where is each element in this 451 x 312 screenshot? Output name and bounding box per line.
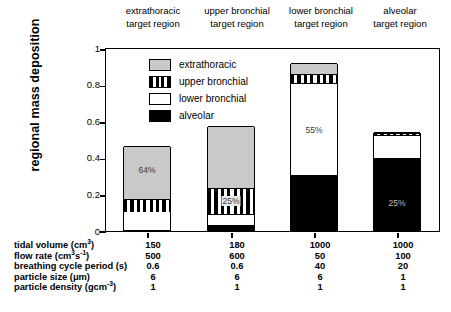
bar-segment-extrathoracic xyxy=(291,63,337,74)
bar-lower-bronchial-target[interactable]: 55% xyxy=(290,64,338,231)
legend-label-alveolar: alveolar xyxy=(179,110,214,121)
bar-segment-upper-bronchial xyxy=(374,133,420,135)
table-row-tidal-volume: tidal volume (cm3) 150 180 1000 1000 xyxy=(14,240,444,251)
bar-segment-alveolar xyxy=(208,225,254,231)
header-line1: alveolar xyxy=(352,4,448,17)
header-line2: target region xyxy=(352,17,448,30)
row-value-3: 1 xyxy=(272,282,368,292)
row-label: flow rate (cm3s-1) xyxy=(14,251,89,261)
row-value-3: 50 xyxy=(272,251,368,261)
legend-swatch-extrathoracic xyxy=(149,59,171,71)
legend-item-upper-bronchial: upper bronchial xyxy=(149,73,248,90)
column-header-upper-bronchial: upper bronchial target region xyxy=(189,4,285,30)
x-tick-2 xyxy=(231,233,233,238)
bar-segment-lower-bronchial xyxy=(124,212,170,230)
legend-item-extrathoracic: extrathoracic xyxy=(149,56,248,73)
row-value-3: 6 xyxy=(272,272,368,282)
y-tick-0.6 xyxy=(100,122,106,124)
row-value-3: 40 xyxy=(272,261,368,271)
y-tick-0.2 xyxy=(100,195,106,197)
row-value-1: 500 xyxy=(105,251,201,261)
row-value-4: 100 xyxy=(355,251,451,261)
header-line1: upper bronchial xyxy=(189,4,285,17)
bar-segment-upper-bronchial: 25% xyxy=(208,188,254,214)
legend-label-upper-bronchial: upper bronchial xyxy=(179,76,248,87)
legend-swatch-alveolar xyxy=(149,110,171,122)
legend-label-extrathoracic: extrathoracic xyxy=(179,59,236,70)
y-tick-0.4 xyxy=(100,159,106,161)
bar-alveolar-target[interactable]: 25% xyxy=(373,133,421,231)
legend-item-alveolar: alveolar xyxy=(149,107,248,124)
row-value-2: 180 xyxy=(189,240,285,250)
legend-label-lower-bronchial: lower bronchial xyxy=(179,93,246,104)
row-value-2: 1 xyxy=(189,282,285,292)
x-tick-4 xyxy=(397,233,399,238)
table-row-particle-density: particle density (gcm-3) 1 1 1 1 xyxy=(14,282,444,293)
y-tick-label-0.8: 0.8 xyxy=(74,79,100,90)
legend-item-lower-bronchial: lower bronchial xyxy=(149,90,248,107)
column-headers: extrathoracic target region upper bronch… xyxy=(105,4,440,42)
bar-value-label: 25% xyxy=(221,196,240,206)
header-line2: target region xyxy=(105,17,201,30)
y-tick-0 xyxy=(100,231,106,233)
row-value-1: 6 xyxy=(105,272,201,282)
column-header-alveolar: alveolar target region xyxy=(352,4,448,30)
y-tick-0.8 xyxy=(100,86,106,88)
y-tick-label-0.6: 0.6 xyxy=(74,116,100,127)
bar-segment-alveolar xyxy=(291,175,337,231)
y-tick-label-0.4: 0.4 xyxy=(74,152,100,163)
y-tick-1 xyxy=(100,49,106,51)
row-value-3: 1000 xyxy=(272,240,368,250)
bar-segment-lower-bronchial xyxy=(208,214,254,225)
table-row-breathing-cycle-period: breathing cycle period (s) 0.6 0.6 40 20 xyxy=(14,261,444,272)
plot-area: extrathoracic upper bronchial lower bron… xyxy=(105,48,440,232)
bar-segment-lower-bronchial: 55% xyxy=(291,83,337,175)
x-tick-3 xyxy=(314,233,316,238)
table-row-particle-size: particle size (μm) 6 6 6 1 xyxy=(14,272,444,283)
bar-segment-extrathoracic: 64% xyxy=(124,146,170,199)
row-value-4: 1000 xyxy=(355,240,451,250)
row-value-4: 20 xyxy=(355,261,451,271)
legend: extrathoracic upper bronchial lower bron… xyxy=(149,56,248,124)
bar-segment-upper-bronchial xyxy=(291,74,337,83)
y-axis-title: regional mass deposition xyxy=(28,0,42,190)
bar-value-label: 55% xyxy=(291,125,337,135)
header-line2: target region xyxy=(189,17,285,30)
y-tick-label-1: 1 xyxy=(74,43,100,54)
row-value-4: 1 xyxy=(355,282,451,292)
row-value-2: 0.6 xyxy=(189,261,285,271)
bar-value-label: 64% xyxy=(124,165,170,175)
column-header-extrathoracic: extrathoracic target region xyxy=(105,4,201,30)
x-tick-1 xyxy=(147,233,149,238)
bar-segment-lower-bronchial xyxy=(374,135,420,158)
header-line1: extrathoracic xyxy=(105,4,201,17)
bar-segment-extrathoracic xyxy=(208,126,254,188)
bar-segment-alveolar: 25% xyxy=(374,158,420,230)
row-value-1: 1 xyxy=(105,282,201,292)
bar-upper-bronchial-target[interactable]: 25% xyxy=(207,127,255,231)
row-value-2: 6 xyxy=(189,272,285,282)
bar-segment-upper-bronchial xyxy=(124,199,170,212)
parameter-table: tidal volume (cm3) 150 180 1000 1000 flo… xyxy=(14,240,444,293)
legend-swatch-upper-bronchial xyxy=(149,76,171,88)
row-label: particle density (gcm-3) xyxy=(14,282,116,292)
row-value-4: 1 xyxy=(355,272,451,282)
table-row-flow-rate: flow rate (cm3s-1) 500 600 50 100 xyxy=(14,251,444,262)
row-value-2: 600 xyxy=(189,251,285,261)
chart-figure: extrathoracic target region upper bronch… xyxy=(0,0,451,312)
row-label: particle size (μm) xyxy=(14,272,90,282)
bar-extrathoracic-target[interactable]: 64% xyxy=(123,147,171,231)
bar-segment-extrathoracic xyxy=(374,132,420,134)
y-tick-label-0: 0 xyxy=(74,226,100,237)
bar-value-label: 25% xyxy=(374,198,420,208)
y-tick-label-0.2: 0.2 xyxy=(74,189,100,200)
legend-swatch-lower-bronchial xyxy=(149,93,171,105)
row-value-1: 0.6 xyxy=(105,261,201,271)
row-value-1: 150 xyxy=(105,240,201,250)
